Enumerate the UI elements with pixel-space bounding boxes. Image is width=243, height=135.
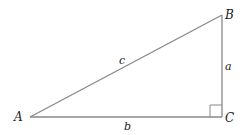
vertex-label-a: A [13,110,23,124]
right-triangle-diagram: A B C a b c [0,0,243,135]
vertex-label-b: B [224,8,234,22]
side-c-hypotenuse [30,15,222,117]
vertex-label-c: C [225,111,234,125]
triangle [30,15,222,117]
side-label-a: a [225,60,232,73]
right-angle-marker [210,105,222,117]
side-label-c: c [119,54,125,67]
side-label-b: b [124,120,131,133]
